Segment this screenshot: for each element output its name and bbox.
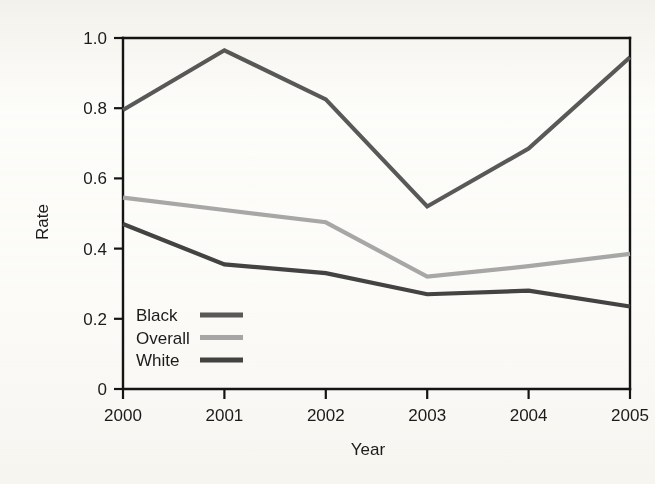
x-tick-label: 2005 [611,406,649,425]
x-tick-label: 2001 [205,406,243,425]
x-tick-label: 2003 [408,406,446,425]
rate-by-year-line-chart: 1.00.80.60.40.20 20002001200220032004200… [0,0,655,484]
x-tick-label: 2000 [104,406,142,425]
x-tick-label: 2004 [510,406,548,425]
legend-label-black: Black [136,306,178,325]
y-tick-label: 0.4 [83,240,107,259]
y-tick-label: 0.6 [83,169,107,188]
legend-label-overall: Overall [136,329,190,348]
y-tick-label: 0.2 [83,310,107,329]
chart-figure: 1.00.80.60.40.20 20002001200220032004200… [0,0,655,484]
legend-label-white: White [136,351,179,370]
y-axis-title: Rate [33,204,52,240]
y-tick-label: 1.0 [83,29,107,48]
x-tick-label: 2002 [307,406,345,425]
x-axis-title: Year [351,440,386,459]
y-tick-label: 0 [98,380,107,399]
y-tick-label: 0.8 [83,99,107,118]
